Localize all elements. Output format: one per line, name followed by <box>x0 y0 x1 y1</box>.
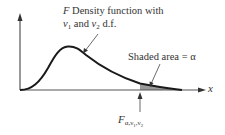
critical-f-symbol: F <box>118 113 125 125</box>
curve-title-line2: ν1 and ν2 d.f. <box>63 19 116 31</box>
critical-value-label: Fα,ν1,ν2 <box>118 114 143 128</box>
y-axis-arrowhead-icon <box>18 13 23 21</box>
critical-value-arrowhead-icon <box>138 92 143 99</box>
shaded-area-label: Shaded area = α <box>128 52 196 63</box>
x-axis-arrowhead-icon <box>198 88 206 93</box>
curve-title-text: Density function with <box>69 5 163 16</box>
curve-title-line1: F Density function with <box>63 6 164 17</box>
curve-pointer-arrow <box>85 34 98 51</box>
curve-pointer-arrowhead-icon <box>83 48 88 54</box>
shaded-pointer-arrow <box>151 64 160 84</box>
critical-sub2: 2 <box>141 123 144 128</box>
x-axis-label: x <box>208 83 213 94</box>
and-text: and <box>71 18 91 29</box>
df-text: d.f. <box>100 18 117 29</box>
